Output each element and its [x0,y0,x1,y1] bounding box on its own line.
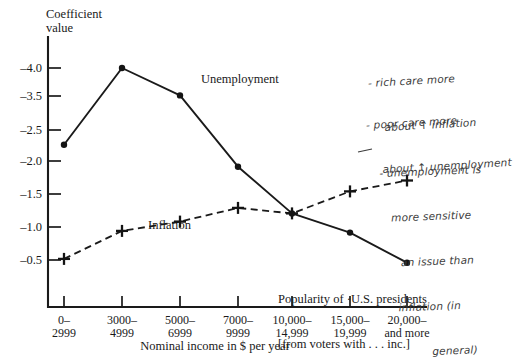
note-line: more sensitive [381,205,519,225]
handwritten-note-sensitivity: - unemployment is more sensitive an issu… [378,131,519,360]
note-line: general) [386,340,519,360]
note-line: an issue than [383,250,519,270]
series-markers-inflation [58,175,413,265]
x-axis-title: Nominal income in $ per year [0,339,430,354]
note-line: - unemployment is [379,161,519,181]
note-line: - poor care more [366,109,519,132]
y-tick-marks [48,68,61,260]
note-line: inflation (in [384,295,519,315]
series-label-inflation: Inflation [148,219,191,232]
series-label-unemployment: Unemployment [201,73,279,86]
figure-canvas: Coefficientvalue –4.0 –3.5 –2.5 –2.0 –1.… [0,0,519,360]
